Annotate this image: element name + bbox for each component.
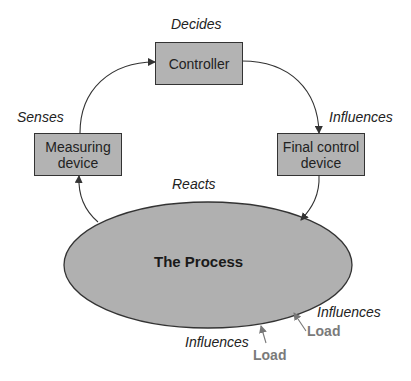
load-label-1: Load xyxy=(253,347,286,363)
influences-label-final: Influences xyxy=(329,109,393,125)
reacts-label: Reacts xyxy=(172,176,216,192)
influences-label-load-2: Influences xyxy=(317,304,381,320)
measuring-device-box: Measuring device xyxy=(34,133,122,176)
arrow-load-1 xyxy=(261,326,266,343)
influences-label-load-1: Influences xyxy=(185,334,249,350)
arrow-process-to-measuring xyxy=(79,176,98,222)
arrow-measuring-to-controller xyxy=(80,62,155,133)
final-control-device-box: Final control device xyxy=(277,133,365,176)
measuring-device-label-line2: device xyxy=(58,155,98,171)
process-label: The Process xyxy=(154,253,243,270)
load-label-2: Load xyxy=(307,323,340,339)
final-control-device-label-line2: device xyxy=(301,155,341,171)
measuring-device-label-line1: Measuring xyxy=(45,139,110,155)
controller-label: Controller xyxy=(169,56,230,72)
decides-label: Decides xyxy=(171,16,222,32)
arrow-final-to-process xyxy=(301,175,319,220)
arrow-controller-to-final xyxy=(242,61,319,133)
senses-label: Senses xyxy=(17,109,64,125)
controller-box: Controller xyxy=(155,42,243,85)
arrow-load-2 xyxy=(294,313,306,331)
final-control-device-label-line1: Final control xyxy=(283,139,359,155)
